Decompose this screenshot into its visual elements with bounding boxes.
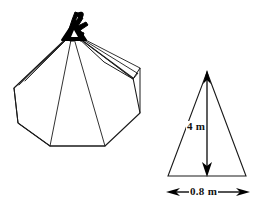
figure-container: 4 m 0.8 m — [0, 0, 269, 209]
height-dimension-label: 4 m — [186, 121, 206, 132]
diagram-canvas — [0, 0, 269, 209]
base-dimension-label: 0.8 m — [189, 186, 218, 197]
